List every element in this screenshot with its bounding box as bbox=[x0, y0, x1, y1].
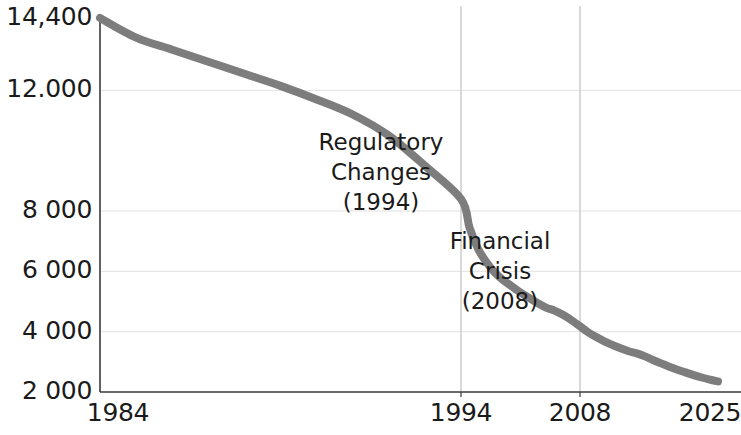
annotation-line: (2008) bbox=[450, 286, 551, 316]
annotation-line: (1994) bbox=[319, 187, 444, 217]
y-tick-label: 4 000 bbox=[22, 316, 92, 345]
x-tick-label: 2008 bbox=[549, 398, 611, 427]
vertical-reference-lines bbox=[461, 6, 580, 392]
x-tick-label: 1994 bbox=[430, 398, 492, 427]
annotation-line: Regulatory bbox=[319, 127, 444, 157]
y-tick-label: 2 000 bbox=[22, 376, 92, 405]
annotation-line: Crisis bbox=[450, 256, 551, 286]
annotation-line: Financial bbox=[450, 226, 551, 256]
annotation-regulatory-changes: RegulatoryChanges(1994) bbox=[319, 127, 444, 217]
x-tick-label: 1984 bbox=[87, 398, 149, 427]
y-tick-label: 8 000 bbox=[22, 195, 92, 224]
y-tick-label: 12.000 bbox=[6, 74, 92, 103]
annotation-line: Changes bbox=[319, 157, 444, 187]
x-tick-label: 2025 bbox=[679, 398, 741, 427]
annotation-financial-crisis: FinancialCrisis(2008) bbox=[450, 226, 551, 316]
line-chart: 14,40012.0008 0006 0004 0002 000 1984199… bbox=[0, 0, 741, 435]
y-tick-label: 14,400 bbox=[6, 2, 92, 31]
chart-plot-area bbox=[0, 0, 741, 435]
y-tick-label: 6 000 bbox=[22, 255, 92, 284]
